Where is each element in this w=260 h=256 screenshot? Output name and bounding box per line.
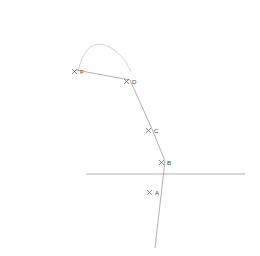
point-marker-F [72,69,77,74]
point-label-a: A [155,189,160,196]
point-marker-B [159,160,164,165]
point-label-d: D [132,78,137,85]
segment-c-to-b [152,129,165,161]
x-icon [124,79,129,84]
point-label-c: C [154,127,159,134]
point-marker-C [146,128,151,133]
x-icon [147,190,152,195]
x-icon [146,128,151,133]
point-marker-A [147,190,152,195]
point-label-b: B [167,159,171,166]
plane-slanted-back [14,8,245,166]
segment-d-to-c [130,80,152,129]
plane-vertical-front [73,8,176,248]
x-icon [72,69,77,74]
connecting-arc [78,44,131,72]
plane-horizontal-base [64,166,245,230]
geometry-diagram: F D C B A [0,0,260,256]
segment-f-to-d [76,70,130,80]
geometry-canvas: F D C B A [0,0,260,256]
point-marker-D [124,79,129,84]
x-icon [159,160,164,165]
point-label-f: F [80,68,84,75]
